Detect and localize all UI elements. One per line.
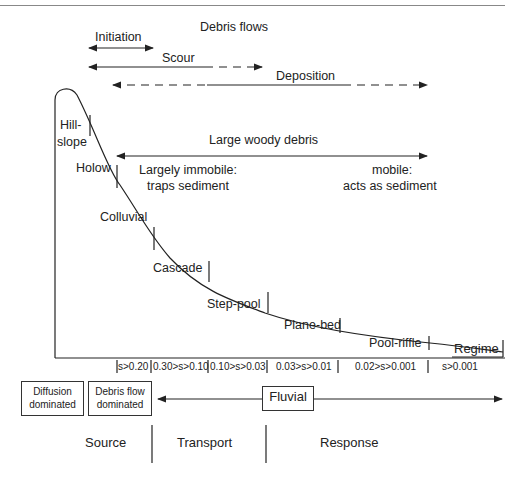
woody-debris-immobile-line2: traps sediment	[147, 179, 229, 193]
woody-debris-mobile-line1: mobile:	[372, 163, 412, 177]
zone-source: Source	[85, 436, 126, 450]
channel-regime: Regime	[454, 342, 499, 356]
initiation-label: Initiation	[95, 30, 142, 44]
channel-hillslope-line1: Hill-	[60, 118, 82, 132]
woody-debris-immobile-line1: Largely immobile:	[139, 163, 237, 177]
scour-label: Scour	[162, 51, 195, 65]
deposition-label: Deposition	[276, 69, 335, 83]
channel-colluvial: Colluvial	[100, 210, 147, 224]
slope-regime: s>0.001	[442, 361, 478, 373]
woody-debris-title: Large woody debris	[209, 133, 318, 147]
fluvial-box: Fluvial	[262, 386, 314, 411]
slope-step-pool: 0.10>s>0.03	[210, 361, 266, 373]
channel-cascade: Cascade	[153, 261, 202, 275]
zone-response: Response	[320, 436, 379, 450]
channel-pool-riffle: Pool-riffle	[369, 336, 422, 350]
channel-hillslope-line2: slope	[57, 135, 87, 149]
zone-transport: Transport	[177, 436, 232, 450]
channel-step-pool: Step-pool	[207, 297, 261, 311]
diffusion-line1: Diffusion	[22, 385, 83, 398]
channel-hollow: Holow	[76, 161, 111, 175]
woody-debris-mobile-line2: acts as sediment	[343, 179, 437, 193]
channel-plane-bed: Plane-bed	[284, 318, 341, 332]
diffusion-dominated-box: Diffusion dominated	[21, 381, 84, 416]
diffusion-line2: dominated	[22, 398, 83, 411]
slope-cascade: 0.30>s>0.10	[153, 361, 209, 373]
slope-colluvial: s>0.20	[118, 361, 148, 373]
slope-plane-bed: 0.03>s>0.01	[276, 361, 332, 373]
debris-flow-dominated-box: Debris flow dominated	[88, 381, 152, 416]
slope-pool-riffle: 0.02>s>0.001	[355, 361, 416, 373]
debris-flows-title: Debris flows	[200, 20, 268, 34]
debris-flow-line1: Debris flow	[89, 385, 151, 398]
debris-flow-line2: dominated	[89, 398, 151, 411]
